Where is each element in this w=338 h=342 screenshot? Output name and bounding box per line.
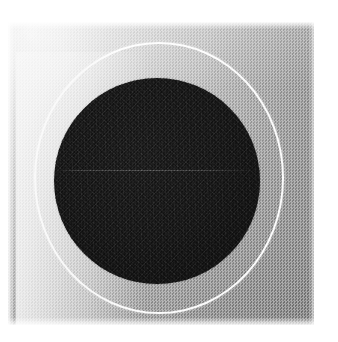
scanned-plate	[8, 22, 314, 325]
figure-root	[0, 0, 338, 342]
dark-disk	[54, 78, 260, 284]
horizontal-scan-line	[56, 170, 258, 171]
dark-disk-grain	[54, 78, 260, 284]
